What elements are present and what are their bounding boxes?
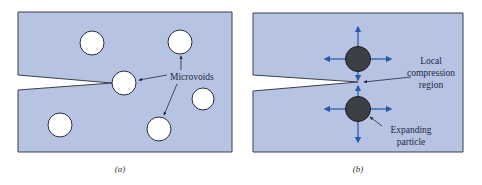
particle-label-line1: Expanding: [390, 125, 431, 135]
compression-label-line3: region: [419, 80, 444, 90]
fracture-diagram: Microvoids (a) Local compression region …: [0, 0, 482, 185]
microvoid: [147, 117, 171, 141]
compression-label-line1: Local: [420, 56, 442, 66]
panel-a: Microvoids (a): [18, 12, 232, 174]
caption-a: (a): [115, 164, 126, 174]
microvoid: [80, 31, 104, 55]
compression-label-line2: compression: [407, 68, 455, 78]
microvoid-crack-tip: [112, 71, 136, 95]
microvoid: [168, 30, 192, 54]
expanding-particle-bottom: [346, 97, 371, 122]
caption-b: (b): [353, 164, 364, 174]
microvoids-label: Microvoids: [170, 72, 214, 82]
microvoid: [192, 88, 214, 110]
microvoid: [48, 113, 72, 137]
expanding-particle-top: [346, 47, 371, 72]
panel-b: Local compression region Expanding parti…: [253, 13, 463, 174]
particle-label-line2: particle: [397, 137, 425, 147]
